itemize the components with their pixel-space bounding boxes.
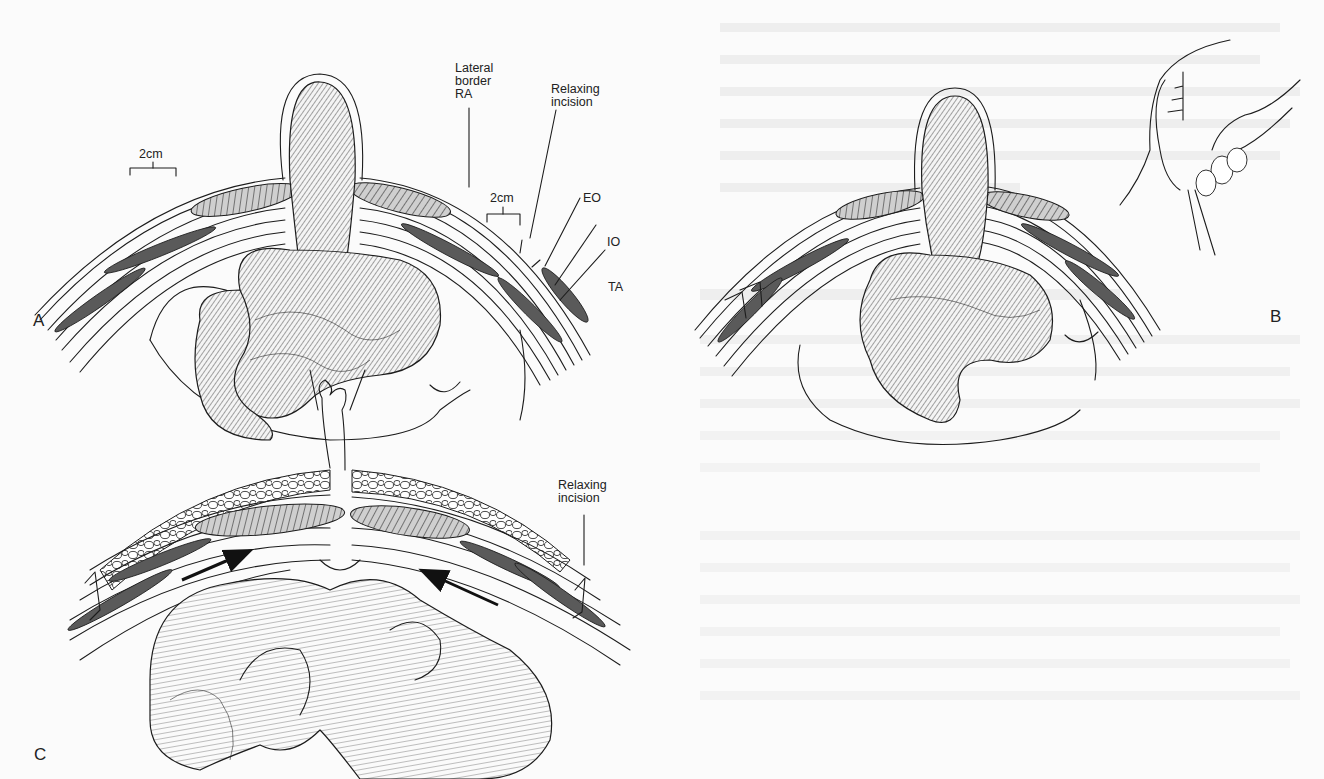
panel-a-right-width-label: 2cm (490, 192, 514, 205)
panel-b: B (660, 0, 1324, 380)
panel-a-letter: A (33, 311, 44, 331)
panel-a-relaxing-incision-label: Relaxing incision (551, 83, 600, 109)
panel-a-eo-label: EO (583, 192, 601, 205)
panel-c-relaxing-incision-label: Relaxing incision (558, 479, 607, 505)
panel-c: Relaxing incision C (0, 380, 700, 779)
panel-c-letter: C (34, 745, 46, 765)
panel-b-letter: B (1270, 307, 1281, 327)
panel-a-lateral-border-label: Lateral border RA (455, 62, 493, 101)
panel-a: 2cm Lateral border RA Relaxing incision … (0, 0, 660, 380)
panel-a-ta-label: TA (608, 281, 623, 294)
panel-a-io-label: IO (607, 236, 620, 249)
panel-a-left-width-label: 2cm (139, 148, 163, 161)
